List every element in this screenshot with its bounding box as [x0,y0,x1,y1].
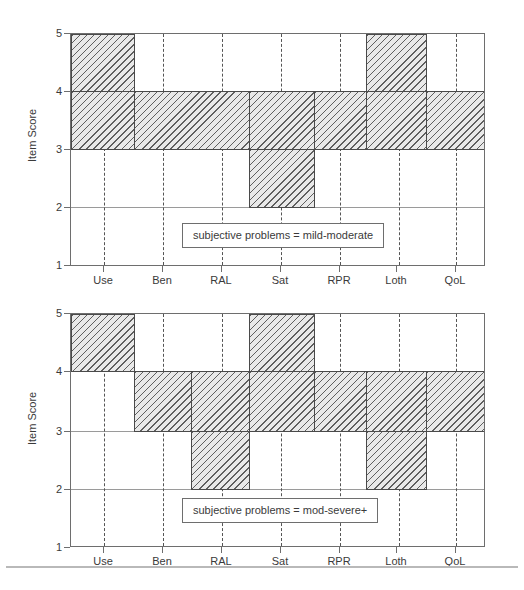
step-band-ben-level4-bottom [134,371,192,432]
x-tick-use-top [103,266,104,272]
y-axis-title-top: Item Score [26,109,38,162]
x-tick-sat-bottom [280,547,281,553]
panel-mild-moderate: Item Score 5 4 3 2 1 [0,12,524,282]
step-band-use-level5-bottom [71,314,135,372]
figure-root: Item Score 5 4 3 2 1 [0,0,524,590]
x-tick-sat-top [280,266,281,272]
step-band-loth-level4-bottom [366,371,427,432]
step-band-use-level4-top [71,91,135,150]
x-label-rpr-top: RPR [309,274,369,286]
y-label-3-bottom: 3 [40,425,62,437]
x-label-sat-top: Sat [250,274,310,286]
x-tick-loth-top [396,266,397,272]
step-band-qol-level4-top [426,91,485,150]
panel-mod-severe: Item Score 5 4 3 2 1 [0,300,524,570]
step-band-sat-level4-top [249,91,315,150]
y-label-1-top: 1 [40,259,62,271]
step-band-loth-level3-bottom [366,431,427,490]
step-band-rpr-level4-bottom [314,371,367,432]
x-tick-qol-top [455,266,456,272]
figure-footer-rule [6,566,518,568]
x-tick-qol-bottom [455,547,456,553]
step-band-sat-level4-bottom [249,371,315,432]
y-axis-title-bottom: Item Score [26,392,38,445]
x-label-qol-top: QoL [425,274,485,286]
x-label-ral-top: RAL [191,274,251,286]
x-tick-loth-bottom [396,547,397,553]
x-tick-rpr-top [339,266,340,272]
x-tick-ben-bottom [162,547,163,553]
step-band-ben-ral-level4-top [134,91,250,150]
step-band-use-level5-top [71,34,135,92]
caption-box-bottom: subjective problems = mod-severe+ [182,498,378,523]
x-label-use-top: Use [73,274,133,286]
y-tick-1-bottom [64,547,70,548]
y-label-5-bottom: 5 [40,307,62,319]
step-band-qol-level4-bottom [426,371,485,432]
y-label-4-bottom: 4 [40,365,62,377]
y-label-2-top: 2 [40,201,62,213]
step-band-sat-level5-bottom [249,314,315,372]
y-label-1-bottom: 1 [40,541,62,553]
x-tick-ben-top [162,266,163,272]
cropped-title-sliver [185,0,325,6]
x-tick-ral-bottom [221,547,222,553]
step-band-sat-level3-top [249,149,315,208]
step-band-ral-level4-bottom [191,371,250,432]
y-label-4-top: 4 [40,85,62,97]
x-label-loth-top: Loth [366,274,426,286]
y-label-2-bottom: 2 [40,483,62,495]
x-tick-rpr-bottom [339,547,340,553]
x-tick-use-bottom [103,547,104,553]
x-label-ben-top: Ben [132,274,192,286]
step-band-loth-level5-top [366,34,427,92]
step-band-ral-level3-bottom [191,431,250,490]
caption-box-top: subjective problems = mild-moderate [182,223,384,248]
x-tick-ral-top [221,266,222,272]
step-band-loth-level4-top [366,91,427,150]
y-label-3-top: 3 [40,143,62,155]
y-label-5-top: 5 [40,27,62,39]
step-band-rpr-level4-top [314,91,367,150]
